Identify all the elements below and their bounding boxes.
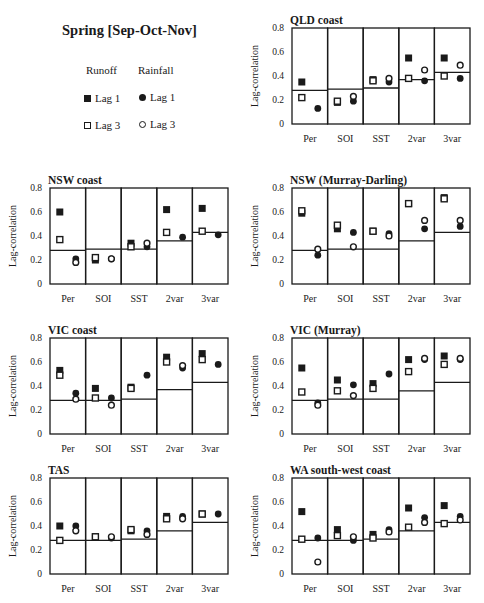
y-tick-label: 0.8: [272, 183, 284, 193]
rainfall-lag1-marker-icon: [108, 395, 115, 402]
category-box: [434, 28, 470, 124]
runoff-lag3-marker-icon: [406, 369, 412, 375]
rainfall-lag3-marker-icon: [180, 363, 186, 369]
y-tick-label: 0.6: [30, 207, 42, 217]
category-box: [86, 338, 122, 434]
y-tick-label: 0.6: [30, 497, 42, 507]
rainfall-lag3-marker-icon: [422, 520, 428, 526]
y-axis-label: Lag-correlation: [7, 205, 18, 267]
runoff-lag1-marker-icon: [441, 55, 448, 62]
runoff-lag3-marker-icon: [370, 78, 376, 84]
rainfall-lag1-marker-icon: [457, 75, 464, 82]
y-tick-label: 0.4: [272, 521, 284, 531]
rainfall-lag1-marker-icon: [350, 229, 357, 236]
y-tick-label: 0: [279, 429, 284, 439]
rainfall-lag1-marker-icon: [179, 234, 186, 241]
x-category-label: SST: [372, 293, 389, 304]
legend-item-rainfall-lag1: Lag 1: [139, 91, 175, 103]
runoff-lag1-marker-icon: [334, 377, 341, 384]
legend-item-runoff-lag1: Lag 1: [84, 92, 120, 104]
x-category-label: 2var: [166, 583, 184, 594]
x-category-label: 3var: [443, 293, 461, 304]
runoff-lag3-marker-icon: [441, 196, 447, 202]
legend-item-runoff-lag3: Lag 3: [84, 119, 120, 131]
y-axis-label: Lag-correlation: [249, 45, 260, 107]
rainfall-lag1-marker-icon: [350, 381, 357, 388]
y-axis-label: Lag-correlation: [249, 495, 260, 557]
rainfall-lag3-marker-icon: [457, 62, 463, 68]
runoff-lag3-marker-icon: [441, 73, 447, 79]
category-box: [363, 338, 399, 434]
category-box: [399, 478, 435, 574]
x-category-label: 2var: [408, 293, 426, 304]
legend-label: Lag 1: [150, 91, 175, 103]
x-category-label: SOI: [95, 583, 111, 594]
category-box: [50, 188, 86, 284]
rainfall-lag3-marker-icon: [315, 246, 321, 252]
runoff-lag3-marker-icon: [441, 361, 447, 367]
category-box: [157, 188, 193, 284]
category-box: [192, 478, 228, 574]
runoff-lag3-marker-icon: [370, 228, 376, 234]
x-category-label: Per: [61, 583, 75, 594]
x-category-label: SOI: [337, 133, 353, 144]
filled-square-marker-icon: [84, 95, 91, 102]
rainfall-lag3-marker-icon: [386, 529, 392, 535]
chart-panel-nsw-coast: NSW coast00.20.40.60.8Lag-correlationPer…: [0, 160, 242, 310]
rainfall-lag3-marker-icon: [351, 94, 357, 100]
rainfall-lag1-marker-icon: [421, 225, 428, 232]
category-box: [434, 338, 470, 434]
open-square-marker-icon: [84, 122, 91, 129]
category-box: [434, 478, 470, 574]
rainfall-lag3-marker-icon: [351, 244, 357, 250]
category-box: [157, 478, 193, 574]
category-box: [328, 188, 364, 284]
category-box: [363, 188, 399, 284]
x-category-label: SST: [372, 133, 389, 144]
chart-panel-wa-south-west-coast: WA south-west coast00.20.40.60.8Lag-corr…: [242, 450, 484, 600]
rainfall-lag3-marker-icon: [315, 559, 321, 565]
x-category-label: 2var: [408, 133, 426, 144]
legend-label: Lag 3: [95, 119, 120, 131]
runoff-lag3-marker-icon: [128, 244, 134, 250]
runoff-lag1-marker-icon: [405, 505, 412, 512]
legend-item-rainfall-lag3: Lag 3: [139, 118, 175, 130]
runoff-lag3-marker-icon: [199, 228, 205, 234]
rainfall-lag3-marker-icon: [422, 67, 428, 73]
panel-title: NSW (Murray-Darling): [290, 174, 407, 187]
x-category-label: 3var: [443, 133, 461, 144]
rainfall-lag3-marker-icon: [351, 534, 357, 540]
rainfall-lag3-marker-icon: [73, 396, 79, 402]
runoff-lag3-marker-icon: [57, 372, 63, 378]
y-tick-label: 0.4: [30, 231, 42, 241]
rainfall-lag3-marker-icon: [144, 532, 150, 538]
runoff-lag3-marker-icon: [92, 534, 98, 540]
runoff-lag3-marker-icon: [441, 521, 447, 527]
y-tick-label: 0.2: [272, 405, 284, 415]
x-category-label: SST: [130, 293, 147, 304]
category-box: [121, 188, 157, 284]
runoff-lag3-marker-icon: [299, 208, 305, 214]
x-category-label: SOI: [337, 583, 353, 594]
y-tick-label: 0.8: [272, 23, 284, 33]
runoff-lag3-marker-icon: [334, 222, 340, 228]
rainfall-lag3-marker-icon: [422, 218, 428, 224]
runoff-lag3-marker-icon: [164, 516, 170, 522]
y-tick-label: 0.6: [272, 47, 284, 57]
y-axis-label: Lag-correlation: [7, 495, 18, 557]
runoff-lag3-marker-icon: [128, 527, 134, 533]
category-box: [86, 188, 122, 284]
y-tick-label: 0.2: [30, 545, 42, 555]
x-category-label: SST: [130, 583, 147, 594]
panel-title: NSW coast: [48, 174, 102, 186]
category-box: [192, 338, 228, 434]
runoff-lag3-marker-icon: [199, 357, 205, 363]
rainfall-lag1-marker-icon: [314, 535, 321, 542]
category-box: [121, 338, 157, 434]
y-tick-label: 0: [37, 429, 42, 439]
rainfall-lag3-marker-icon: [109, 256, 115, 262]
rainfall-lag1-marker-icon: [215, 361, 222, 368]
y-tick-label: 0.8: [30, 333, 42, 343]
category-box: [328, 28, 364, 124]
runoff-lag1-marker-icon: [298, 365, 305, 372]
